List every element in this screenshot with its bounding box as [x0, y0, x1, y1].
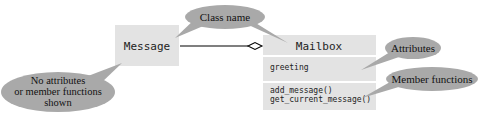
callout-text: or member functions: [14, 86, 101, 97]
callout-text: Class name: [200, 11, 251, 23]
mailbox-function: add_message(): [270, 86, 333, 95]
mailbox-function: get_current_message(): [270, 95, 371, 104]
message-class: Message: [115, 25, 179, 66]
mailbox-class-name: Mailbox: [296, 40, 343, 53]
callout-text: shown: [44, 97, 72, 108]
callout-text: Member functions: [392, 73, 473, 85]
mailbox-class: Mailbox greeting add_message() get_curre…: [263, 35, 376, 110]
callout-text: No attributes: [31, 75, 86, 86]
aggregation-association: [180, 43, 262, 50]
aggregation-diamond-icon: [248, 43, 262, 50]
uml-diagram: Message Mailbox greeting add_message() g…: [0, 0, 492, 120]
mailbox-attribute: greeting: [270, 63, 309, 72]
callout-text: Attributes: [391, 42, 435, 54]
callout-no-members: No attributes or member functions shown: [1, 63, 122, 112]
callout-member-functions: Member functions: [362, 67, 478, 98]
message-class-name: Message: [124, 40, 170, 53]
